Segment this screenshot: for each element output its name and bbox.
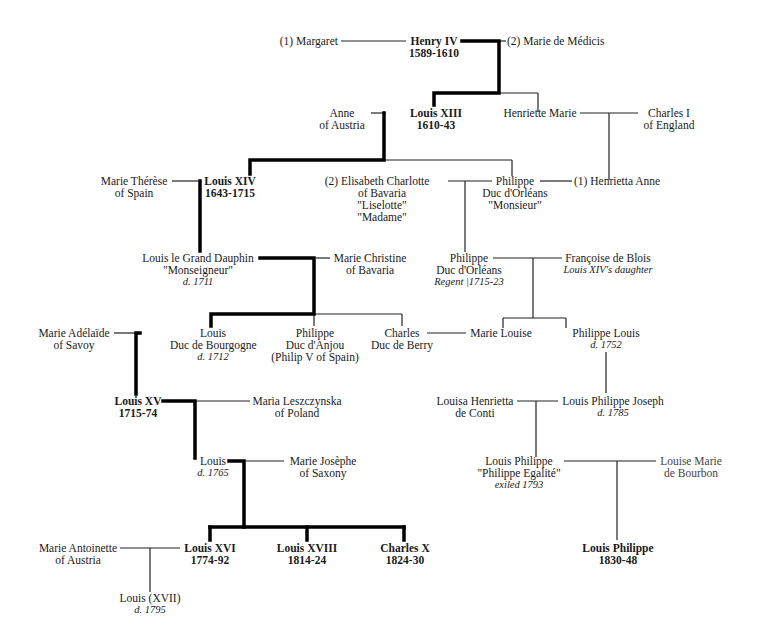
person-philippe-regent: Philippe Duc d'Orléans Regent |1715-23 bbox=[434, 252, 504, 288]
person-henriette-marie: Henriette Marie bbox=[500, 107, 580, 119]
person-louis-philippe-egalite: Louis Philippe "Philippe Egalité" exiled… bbox=[474, 455, 564, 491]
person-louis-xvii: Louis (XVII) d. 1795 bbox=[114, 592, 186, 616]
person-grand-dauphin: Louis le Grand Dauphin "Monseigneur" d. … bbox=[136, 252, 260, 288]
person-louis-xiv: Louis XIV 1643-1715 bbox=[198, 175, 262, 199]
person-louis-bourgogne: Louis Duc de Bourgogne d. 1712 bbox=[170, 327, 256, 363]
person-louisa-henrietta: Louisa Henrietta de Conti bbox=[434, 395, 516, 419]
person-marie-antoinette: Marie Antoinette of Austria bbox=[38, 542, 118, 566]
person-henrietta-anne: (1) Henrietta Anne bbox=[574, 175, 694, 187]
person-louis-xvi: Louis XVI 1774-92 bbox=[182, 542, 238, 566]
person-louis-philippe-joseph: Louis Philippe Joseph d. 1785 bbox=[558, 395, 668, 419]
person-marie-josephe: Marie Josèphe of Saxony bbox=[286, 455, 360, 479]
person-marie-adelaide: Marie Adélaïde of Savoy bbox=[36, 327, 112, 351]
person-louis-philippe-king: Louis Philippe 1830-48 bbox=[580, 542, 656, 566]
person-charles-berry: Charles Duc de Berry bbox=[370, 327, 434, 351]
person-henry-iv: Henry IV 1589-1610 bbox=[404, 35, 464, 59]
person-charles-x: Charles X 1824-30 bbox=[378, 542, 432, 566]
person-louis-xv: Louis XV 1715-74 bbox=[112, 395, 164, 419]
person-elisabeth-charlotte: (2) Elisabeth Charlotte of Bavaria "Lise… bbox=[306, 175, 448, 223]
person-charles-i: Charles I of England bbox=[636, 107, 702, 131]
person-louis-xiii: Louis XIII 1610-43 bbox=[404, 107, 468, 131]
person-francoise-de-blois: Françoise de Blois Louis XIV's daughter bbox=[562, 252, 654, 276]
person-margaret: (1) Margaret bbox=[262, 35, 338, 47]
person-anne-of-austria: Anne of Austria bbox=[312, 107, 372, 131]
person-louis-xviii: Louis XVIII 1814-24 bbox=[276, 542, 338, 566]
person-philippe-louis: Philippe Louis d. 1752 bbox=[570, 327, 642, 351]
person-louise-marie: Louise Marie de Bourbon bbox=[658, 455, 724, 479]
person-marie-louise: Marie Louise bbox=[468, 327, 534, 339]
person-philippe-anjou: Philippe Duc d'Anjou (Philip V of Spain) bbox=[268, 327, 362, 363]
person-marie-de-medicis: (2) Marie de Médicis bbox=[507, 35, 647, 47]
person-marie-christine: Marie Christine of Bavaria bbox=[330, 252, 410, 276]
person-maria-leszczynska: Maria Leszczynska of Poland bbox=[252, 395, 342, 419]
person-marie-therese: Marie Thérèse of Spain bbox=[96, 175, 172, 199]
person-philippe-monsieur: Philippe Duc d'Orléans "Monsieur" bbox=[478, 175, 552, 211]
person-louis-dauphin: Louis d. 1765 bbox=[196, 455, 230, 479]
